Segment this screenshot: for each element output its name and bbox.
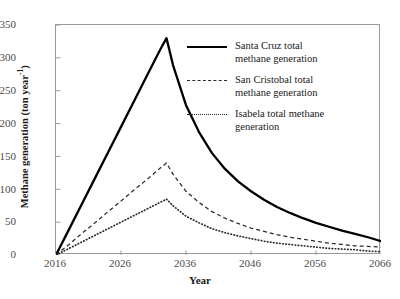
legend-swatch-dotted-line-icon — [185, 108, 229, 122]
y-axis-title: Methane generation (ton year-1) — [16, 22, 30, 252]
y-tick-0: 0 — [0, 249, 16, 260]
legend-label-san-cristobal: San Cristobal total methane generation — [235, 74, 318, 99]
legend-item-san-cristobal: San Cristobal total methane generation — [185, 74, 375, 99]
legend-label-isabela: Isabela total methane generation — [235, 108, 324, 133]
legend-swatch-dashed-line-icon — [185, 74, 229, 88]
x-tick-2036: 2036 — [158, 258, 212, 269]
legend-label-isabela-line1: Isabela total methane — [235, 108, 324, 119]
x-tick-2016: 2016 — [28, 258, 82, 269]
legend-item-santa-cruz: Santa Cruz total methane generation — [185, 40, 375, 65]
legend-label-isabela-line2: generation — [235, 121, 279, 132]
y-axis-title-tail: ) — [19, 65, 30, 69]
chart-legend: Santa Cruz total methane generation San … — [185, 40, 375, 142]
x-tick-2046: 2046 — [223, 258, 277, 269]
series-line-san-cristobal — [56, 163, 381, 255]
legend-label-san-cristobal-line2: methane generation — [235, 87, 318, 98]
legend-label-santa-cruz-line2: methane generation — [235, 53, 318, 64]
legend-item-isabela: Isabela total methane generation — [185, 108, 375, 133]
x-axis-title: Year — [0, 274, 400, 286]
y-tick-150: 150 — [0, 151, 16, 162]
y-tick-350: 350 — [0, 19, 16, 30]
y-tick-250: 250 — [0, 85, 16, 96]
y-axis-title-main: Methane generation (ton year — [19, 75, 30, 208]
y-axis-title-superscript: -1 — [16, 69, 25, 75]
y-tick-200: 200 — [0, 118, 16, 129]
legend-label-santa-cruz: Santa Cruz total methane generation — [235, 40, 318, 65]
x-tick-2066: 2066 — [353, 258, 400, 269]
y-tick-300: 300 — [0, 52, 16, 63]
legend-label-santa-cruz-line1: Santa Cruz total — [235, 40, 303, 51]
legend-label-san-cristobal-line1: San Cristobal total — [235, 74, 313, 85]
x-tick-2056: 2056 — [288, 258, 342, 269]
chart-figure: 350 300 250 200 150 100 50 0 2016 2026 2… — [0, 0, 400, 299]
y-tick-50: 50 — [0, 216, 16, 227]
y-tick-100: 100 — [0, 184, 16, 195]
legend-swatch-solid-line-icon — [185, 40, 229, 54]
x-tick-2026: 2026 — [93, 258, 147, 269]
